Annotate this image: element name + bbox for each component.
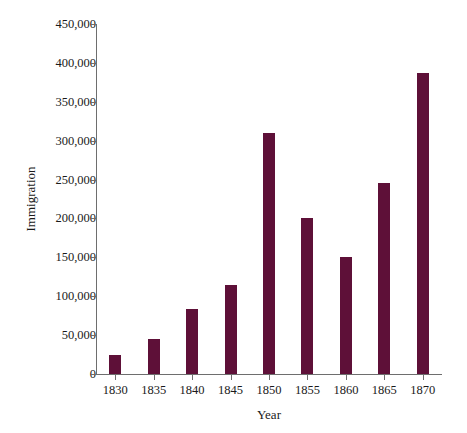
x-axis-tick-mark: [154, 375, 155, 380]
y-axis-tick-label: 0: [34, 368, 96, 381]
y-axis-tick-mark: [91, 335, 96, 336]
y-axis-tick-mark: [91, 296, 96, 297]
bar: [109, 355, 121, 374]
y-axis-tick-mark: [91, 63, 96, 64]
x-axis-tick-mark: [192, 375, 193, 380]
x-axis-tick-label: 1870: [397, 384, 449, 397]
y-axis-tick-label: 400,000: [34, 57, 96, 70]
bar: [225, 285, 237, 374]
y-axis-tick-label: 300,000: [34, 134, 96, 147]
x-axis-tick-mark: [231, 375, 232, 380]
y-axis-tick-label: 100,000: [34, 290, 96, 303]
x-axis-tick-mark: [346, 375, 347, 380]
y-axis-tick-labels: 050,000100,000150,000200,000250,000300,0…: [34, 0, 96, 433]
y-axis-tick-label: 250,000: [34, 173, 96, 186]
y-axis-tick-label: 450,000: [34, 18, 96, 31]
y-axis-tick-label: 50,000: [34, 329, 96, 342]
y-axis-tick-mark: [91, 102, 96, 103]
x-axis-tick-mark: [269, 375, 270, 380]
y-axis-tick-mark: [91, 218, 96, 219]
bar-chart: Immigration 050,000100,000150,000200,000…: [0, 0, 467, 433]
y-axis-tick-mark: [91, 24, 96, 25]
x-axis-tick-mark: [384, 375, 385, 380]
bar: [301, 218, 313, 374]
bar: [340, 257, 352, 374]
x-axis-tick-mark: [115, 375, 116, 380]
bar: [186, 309, 198, 374]
bar: [148, 339, 160, 374]
x-axis-tick-mark: [307, 375, 308, 380]
bar: [378, 183, 390, 374]
plot-area: [96, 24, 442, 374]
y-axis-tick-mark: [91, 180, 96, 181]
y-axis-tick-mark: [91, 257, 96, 258]
x-axis-title: Year: [96, 408, 442, 421]
y-axis-tick-mark: [91, 374, 96, 375]
bar: [263, 133, 275, 374]
x-axis-tick-mark: [423, 375, 424, 380]
y-axis-tick-mark: [91, 141, 96, 142]
y-axis-tick-label: 200,000: [34, 212, 96, 225]
bar: [417, 73, 429, 374]
y-axis-tick-label: 150,000: [34, 251, 96, 264]
y-axis-tick-label: 350,000: [34, 96, 96, 109]
